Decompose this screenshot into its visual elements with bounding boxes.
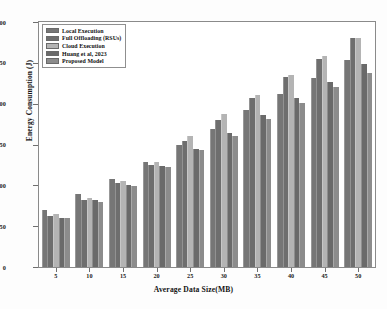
- bar: [232, 136, 238, 267]
- bar-group: [140, 22, 174, 267]
- bar: [367, 73, 373, 267]
- y-axis-tick-mark: [33, 267, 38, 268]
- x-axis-tick-mark: [257, 268, 258, 272]
- x-axis-label: Average Data Size(MB): [0, 285, 387, 294]
- y-axis-tick-mark: [33, 226, 38, 227]
- x-axis-tick-mark: [325, 268, 326, 272]
- bar: [98, 202, 104, 267]
- y-axis-tick-label: 250: [0, 59, 6, 66]
- x-axis-tick-label: 10: [74, 272, 104, 279]
- legend-item[interactable]: Proposed Model: [46, 57, 121, 65]
- y-axis-label: Energy Consumption (J): [25, 26, 34, 176]
- bar-group: [274, 22, 308, 267]
- y-axis-tick-mark: [33, 63, 38, 64]
- x-axis-tick-label: 40: [276, 272, 306, 279]
- x-axis-tick-label: 15: [108, 272, 138, 279]
- y-axis-tick-mark: [33, 104, 38, 105]
- bar: [131, 186, 137, 267]
- y-axis-tick-mark: [33, 145, 38, 146]
- legend-item-label: Huang et al, 2023: [62, 51, 107, 57]
- legend-swatch-icon: [46, 36, 59, 41]
- x-axis-tick-label: 35: [242, 272, 272, 279]
- x-axis-tick-mark: [56, 268, 57, 272]
- bar-group: [308, 22, 342, 267]
- bar-group: [173, 22, 207, 267]
- energy-consumption-bar-chart: 050100150200250300 Energy Consumption (J…: [0, 0, 387, 309]
- x-axis-tick-label: 50: [343, 272, 373, 279]
- legend-swatch-icon: [46, 58, 59, 63]
- x-axis-tick-mark: [157, 268, 158, 272]
- legend-item[interactable]: Huang et al, 2023: [46, 50, 121, 58]
- legend-item-label: Cloud Execution: [62, 43, 105, 49]
- x-axis-tick-label: 20: [142, 272, 172, 279]
- legend-swatch-icon: [46, 51, 59, 56]
- y-axis-tick-label: 200: [0, 100, 6, 107]
- bar: [64, 218, 70, 267]
- bar: [199, 150, 205, 267]
- y-axis-tick-label: 0: [0, 264, 6, 271]
- x-axis-tick-label: 30: [209, 272, 239, 279]
- x-axis-tick-mark: [89, 268, 90, 272]
- bar-group: [341, 22, 375, 267]
- legend-item-label: Full Offloading (RSUs): [62, 35, 121, 41]
- bar-group: [207, 22, 241, 267]
- y-axis-tick-label: 150: [0, 141, 6, 148]
- legend-item-label: Proposed Model: [62, 58, 104, 64]
- bar-group: [241, 22, 275, 267]
- y-axis-tick-label: 300: [0, 19, 6, 26]
- y-axis-tick-mark: [33, 185, 38, 186]
- bar: [266, 119, 272, 267]
- chart-legend: Local ExecutionFull Offloading (RSUs)Clo…: [42, 24, 126, 68]
- bar: [165, 167, 171, 267]
- legend-item[interactable]: Local Execution: [46, 27, 121, 35]
- legend-swatch-icon: [46, 43, 59, 48]
- x-axis-tick-mark: [123, 268, 124, 272]
- bar: [299, 103, 305, 267]
- x-axis-tick-label: 5: [41, 272, 71, 279]
- x-axis-tick-label: 25: [175, 272, 205, 279]
- legend-item[interactable]: Full Offloading (RSUs): [46, 35, 121, 43]
- y-axis-tick-label: 50: [0, 223, 6, 230]
- x-axis-tick-mark: [358, 268, 359, 272]
- x-axis-tick-mark: [291, 268, 292, 272]
- y-axis-tick-label: 100: [0, 182, 6, 189]
- legend-item-label: Local Execution: [62, 28, 104, 34]
- bar: [333, 87, 339, 267]
- y-axis-tick-mark: [33, 22, 38, 23]
- x-axis-tick-label: 45: [310, 272, 340, 279]
- legend-item[interactable]: Cloud Execution: [46, 42, 121, 50]
- x-axis-tick-mark: [190, 268, 191, 272]
- x-axis-tick-mark: [224, 268, 225, 272]
- legend-swatch-icon: [46, 28, 59, 33]
